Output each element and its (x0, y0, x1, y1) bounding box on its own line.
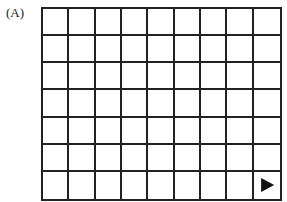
figure-label: (A) (6, 5, 24, 21)
grid-cell (43, 9, 69, 36)
grid-cell (254, 118, 280, 145)
grid-cell (201, 9, 227, 36)
grid-cell (96, 9, 122, 36)
grid-cell (175, 63, 201, 90)
grid-cell (254, 9, 280, 36)
grid-cell (43, 172, 69, 199)
grid-cell (201, 145, 227, 172)
grid-cell (254, 145, 280, 172)
grid-cell (227, 172, 253, 199)
grid-cell (69, 118, 95, 145)
grid-cell (43, 63, 69, 90)
grid-cell (175, 9, 201, 36)
grid-cell (227, 145, 253, 172)
grid-cell (69, 9, 95, 36)
grid-cell (175, 172, 201, 199)
grid-cell (43, 145, 69, 172)
grid-cell (43, 118, 69, 145)
grid-cell (122, 90, 148, 117)
grid-cell (96, 118, 122, 145)
grid-cell (69, 90, 95, 117)
grid-cell (227, 63, 253, 90)
grid-cell (69, 145, 95, 172)
grid-cell (175, 145, 201, 172)
grid-cell (122, 63, 148, 90)
grid-cell (201, 172, 227, 199)
grid-cell (175, 90, 201, 117)
grid-cell (227, 9, 253, 36)
grid-cell (148, 36, 174, 63)
grid-cell (201, 118, 227, 145)
grid-cell (122, 9, 148, 36)
grid-cell (201, 36, 227, 63)
grid-cell (122, 145, 148, 172)
grid-cell (227, 118, 253, 145)
grid-cell (227, 90, 253, 117)
play-triangle-icon (261, 178, 274, 192)
grid-cell (148, 145, 174, 172)
grid-cell (148, 90, 174, 117)
grid-cell (175, 36, 201, 63)
grid-cell (201, 63, 227, 90)
grid-cell (122, 36, 148, 63)
grid-cell (254, 36, 280, 63)
grid-cell (254, 63, 280, 90)
grid-cell (148, 63, 174, 90)
grid-cell (227, 36, 253, 63)
grid-cell (175, 118, 201, 145)
grid-cell (96, 172, 122, 199)
grid-cell (96, 90, 122, 117)
grid-cell (69, 36, 95, 63)
grid-cell (254, 172, 280, 199)
grid-cell (254, 90, 280, 117)
grid-cell (69, 63, 95, 90)
grid-cell (69, 172, 95, 199)
grid-cell (148, 172, 174, 199)
grid-cell (96, 63, 122, 90)
grid-cell (43, 36, 69, 63)
grid-cell (96, 36, 122, 63)
grid-cell (43, 90, 69, 117)
grid-board (41, 7, 282, 201)
grid-cell (122, 172, 148, 199)
grid-cell (96, 145, 122, 172)
grid-cell (201, 90, 227, 117)
grid-cell (122, 118, 148, 145)
grid-cell (148, 9, 174, 36)
grid-cell (148, 118, 174, 145)
